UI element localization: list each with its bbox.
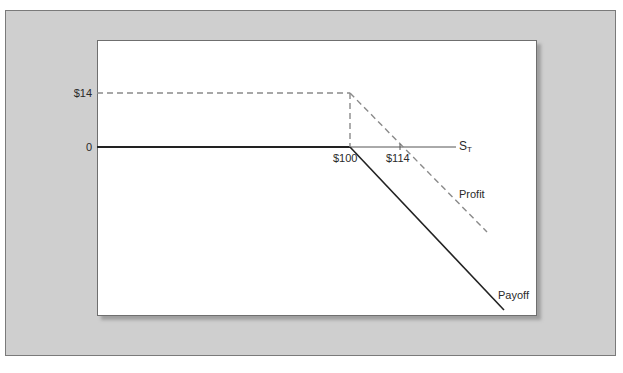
payoff-descending-segment: [350, 147, 504, 310]
x-axis-label: ST: [459, 140, 472, 154]
profit-label: Profit: [459, 189, 485, 200]
profit-descending-segment: [350, 93, 487, 232]
x-tick-114: $114: [386, 153, 410, 164]
y-tick-0: 0: [52, 142, 92, 153]
x-tick-100: $100: [333, 153, 357, 164]
x-axis-label-subscript: T: [467, 145, 472, 154]
chart-plot: [0, 0, 623, 373]
x-axis-label-main: S: [459, 139, 467, 153]
y-tick-14: $14: [52, 88, 92, 99]
payoff-label: Payoff: [498, 290, 529, 301]
